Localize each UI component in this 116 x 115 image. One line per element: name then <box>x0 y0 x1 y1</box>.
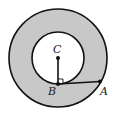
label-b: B <box>47 85 56 98</box>
concentric-circles-diagram: C B A <box>0 0 116 115</box>
label-c: C <box>53 43 62 56</box>
point-c <box>56 56 60 60</box>
point-a <box>98 80 102 84</box>
label-a: A <box>99 85 108 98</box>
point-b <box>56 82 60 86</box>
